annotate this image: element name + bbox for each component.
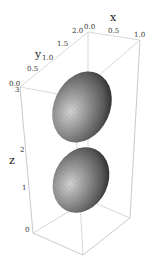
3d-plot[interactable]: x 0.0 0.5 1.0 2.0 1.5 y 1.0 0.5 0.0 3 2 … xyxy=(0,0,154,268)
ellipsoid-lower xyxy=(42,138,120,222)
z-axis-label: z xyxy=(9,154,15,167)
y-tick-1: 0.5 xyxy=(27,65,38,73)
x-tick-1: 0.5 xyxy=(108,27,119,35)
z-tick-3: 3 xyxy=(15,86,19,94)
x-tick-2: 1.0 xyxy=(134,31,145,39)
y-tick-4: 2.0 xyxy=(72,27,83,35)
y-tick-2: 1.0 xyxy=(42,54,53,62)
x-axis: x 0.0 0.5 1.0 xyxy=(84,11,145,39)
y-axis-label: y xyxy=(34,48,42,61)
ellipsoid-upper xyxy=(41,62,123,153)
y-tick-3: 1.5 xyxy=(57,40,68,48)
z-tick-1: 1 xyxy=(22,184,26,192)
z-tick-0: 0 xyxy=(25,226,29,234)
x-tick-0: 0.0 xyxy=(84,23,95,31)
x-axis-label: x xyxy=(110,11,117,24)
z-tick-2: 2 xyxy=(20,146,24,154)
